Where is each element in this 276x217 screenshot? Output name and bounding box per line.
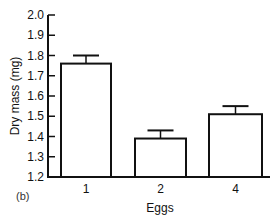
bar-rect [135, 139, 186, 177]
panel-label: (b) [16, 190, 29, 202]
y-tick-label: 1.4 [27, 130, 44, 144]
x-tick-label: 4 [232, 182, 239, 196]
x-tick-label: 2 [157, 182, 164, 196]
bar-1 [61, 56, 111, 178]
y-tick-label: 1.9 [27, 28, 44, 42]
bar-chart: 1.21.31.41.51.61.71.81.92.0 124 Dry mass… [0, 0, 276, 217]
y-tick-label: 1.7 [27, 69, 44, 83]
y-tick-label: 1.5 [27, 109, 44, 123]
y-tick-label: 1.2 [27, 170, 44, 184]
y-tick-label: 1.3 [27, 150, 44, 164]
y-axis-title: Dry mass (mg) [8, 57, 22, 136]
x-tick-label: 1 [83, 182, 90, 196]
bar-4 [209, 106, 262, 177]
y-axis-ticks: 1.21.31.41.51.61.71.81.92.0 [27, 8, 55, 184]
y-tick-label: 1.6 [27, 89, 44, 103]
bar-rect [61, 64, 111, 177]
y-tick-label: 1.8 [27, 49, 44, 63]
x-axis-labels: 124 [83, 182, 240, 196]
x-axis-title: Eggs [146, 201, 173, 215]
bar-2 [135, 130, 186, 177]
bar-rect [209, 114, 262, 177]
bars [61, 56, 262, 178]
y-tick-label: 2.0 [27, 8, 44, 22]
